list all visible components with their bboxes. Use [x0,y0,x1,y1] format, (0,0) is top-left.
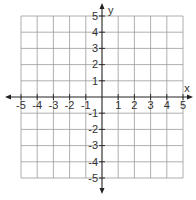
y-tick-label: 3 [92,42,98,54]
x-tick-label: 4 [164,99,170,111]
y-tick-label: 2 [92,58,98,70]
x-tick-labels: -5 -4 -3 -2 -1 1 2 3 4 5 [16,99,186,111]
x-tick-label: 5 [180,99,186,111]
x-tick-label: -4 [32,99,42,111]
x-tick-label: 2 [131,99,137,111]
y-tick-label: -5 [88,172,98,184]
y-tick-label: -1 [88,107,98,119]
x-tick-label: -2 [65,99,75,111]
x-axis-right-arrow-icon [187,95,193,100]
coordinate-plane: x y -5 -4 -3 -2 -1 1 2 3 4 5 5 4 3 2 1 -… [0,0,196,200]
y-axis-up-arrow-icon [100,3,105,9]
y-tick-label: 1 [92,75,98,87]
y-tick-label: 4 [92,26,98,38]
y-axis-label: y [108,4,114,16]
y-axis-down-arrow-icon [100,188,105,194]
x-tick-label: 3 [148,99,154,111]
y-tick-label: -3 [88,139,98,151]
x-axis-left-arrow-icon [5,95,11,100]
y-tick-label: -4 [88,156,98,168]
x-tick-label: 1 [115,99,121,111]
x-axis-label: x [184,82,190,94]
y-tick-label: 5 [92,10,98,22]
x-tick-label: -5 [16,99,26,111]
x-tick-label: -3 [49,99,59,111]
y-tick-label: -2 [88,123,98,135]
